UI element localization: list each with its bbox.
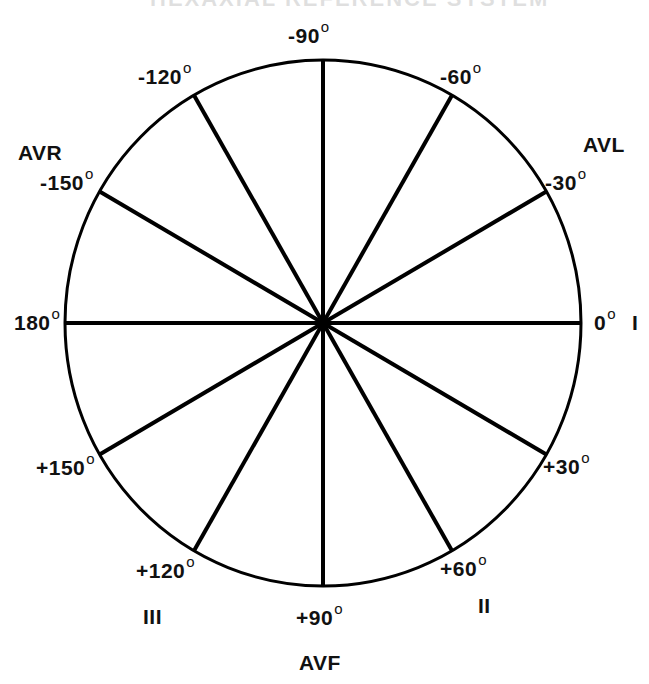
- angle-label-pos60: +60o: [440, 558, 487, 579]
- spoke-neg150: [100, 192, 323, 324]
- spoke-150: [100, 323, 323, 455]
- lead-label-iii: III: [143, 606, 162, 627]
- spoke-neg120: [194, 95, 323, 323]
- lead-label-avl: AVL: [583, 134, 625, 155]
- angle-label-pos30: +30o: [543, 456, 590, 477]
- hexaxial-diagram: HEXAXIAL REFERENCE SYSTEM -90o -60o -120…: [0, 0, 649, 684]
- hexaxial-graphic: [0, 0, 649, 684]
- angle-label-pos120: +120o: [136, 560, 195, 581]
- lead-label-avr: AVR: [18, 142, 62, 163]
- lead-label-avf: AVF: [299, 652, 341, 673]
- spoke-120: [194, 323, 323, 551]
- angle-label-180: 180o: [14, 312, 60, 333]
- angle-label-neg120: -120o: [138, 66, 192, 87]
- angle-label-neg60: -60o: [440, 66, 482, 87]
- spoke-60: [323, 323, 452, 551]
- angle-label-neg30: -30o: [545, 172, 587, 193]
- center-point: [316, 316, 330, 330]
- angle-label-neg90: -90o: [288, 25, 330, 46]
- spoke-neg60: [323, 95, 452, 323]
- spoke-neg30: [323, 192, 546, 324]
- angle-label-neg150: -150o: [40, 172, 94, 193]
- lead-label-i: I: [632, 312, 638, 333]
- angle-label-pos150: +150o: [36, 457, 95, 478]
- angle-label-pos90: +90o: [296, 607, 343, 628]
- angle-label-zero: 0o: [594, 312, 616, 333]
- spoke-30: [323, 323, 546, 455]
- lead-label-ii: II: [478, 595, 491, 616]
